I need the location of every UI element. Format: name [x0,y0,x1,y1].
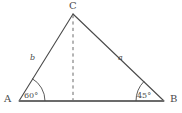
vertex-label-a: A [4,94,11,104]
vertex-label-c: C [69,1,77,11]
angle-label-at-b: 45° [137,92,151,100]
side-label-b: b [30,54,35,62]
side-b-line [19,14,73,101]
angle-label-at-a: 60° [24,92,38,100]
geometry-diagram-canvas: C A B b a 60° 45° [0,0,182,113]
side-label-a: a [118,54,123,62]
vertex-label-b: B [170,94,177,104]
